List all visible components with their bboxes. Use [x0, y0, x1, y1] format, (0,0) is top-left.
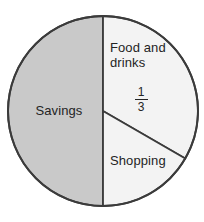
pie-chart-figure: Savings Food and drinks 1 3 Shopping [0, 0, 204, 222]
pie-slice-savings [8, 16, 103, 206]
pie-chart-svg [0, 0, 204, 222]
